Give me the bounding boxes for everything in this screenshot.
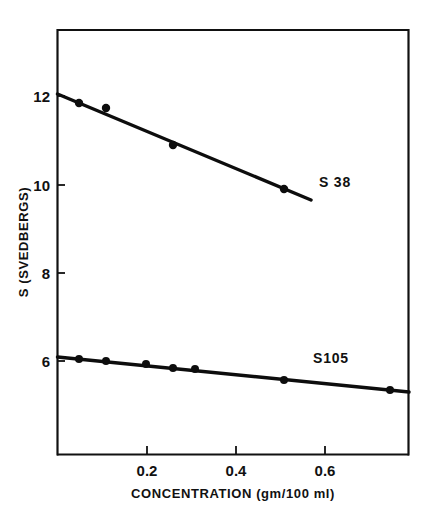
series-s105-point <box>386 386 394 394</box>
series-s105-point <box>142 360 150 368</box>
series-s105-point <box>102 357 110 365</box>
y-tick-label-10: 10 <box>33 177 50 194</box>
series-s38-point <box>75 99 83 107</box>
series-s105-point <box>75 355 83 363</box>
figure-background <box>0 0 433 514</box>
x-tick-label-0.6: 0.6 <box>315 462 336 479</box>
y-tick-label-12: 12 <box>33 88 50 105</box>
series-s105-point <box>280 376 288 384</box>
x-tick-label-0.4: 0.4 <box>226 462 248 479</box>
x-axis-title: CONCENTRATION (gm/100 ml) <box>131 486 335 501</box>
series-s38-point <box>102 104 110 112</box>
y-tick-label-8: 8 <box>42 265 50 282</box>
y-axis-title: S (SVEDBERGS) <box>16 187 31 297</box>
series-s38-point <box>169 141 177 149</box>
series-s38-label: S 38 <box>319 174 351 190</box>
y-tick-label-6: 6 <box>42 353 50 370</box>
sedimentation-coefficient-chart: 12 10 8 6 0.2 0.4 0.6 CONCENTRATION (gm/… <box>0 0 433 514</box>
x-tick-label-0.2: 0.2 <box>137 462 158 479</box>
series-s38-point <box>280 185 288 193</box>
series-s105-point <box>169 364 177 372</box>
series-s105-label: S105 <box>313 350 349 366</box>
series-s105-point <box>191 365 199 373</box>
